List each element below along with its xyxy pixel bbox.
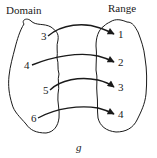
range-element-4: 4 xyxy=(118,108,124,120)
domain-element-3: 3 xyxy=(41,30,47,42)
mapping-arrow-6-to-4 xyxy=(38,107,114,118)
range-element-2: 2 xyxy=(118,56,124,68)
function-label: g xyxy=(76,141,82,153)
mapping-arrow-4-to-2 xyxy=(32,54,114,65)
domain-element-5: 5 xyxy=(43,84,49,96)
domain-element-6: 6 xyxy=(31,112,37,124)
mapping-diagram: Domain Range 3 4 5 6 1 2 3 4 g xyxy=(0,0,157,158)
mapping-arrow-5-to-3 xyxy=(50,78,114,90)
domain-title: Domain xyxy=(6,4,42,16)
range-element-3: 3 xyxy=(118,81,124,93)
range-title: Range xyxy=(108,2,136,14)
range-element-1: 1 xyxy=(118,28,124,40)
domain-element-4: 4 xyxy=(24,59,30,71)
